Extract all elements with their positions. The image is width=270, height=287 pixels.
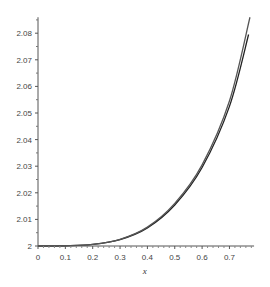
y-tick-label: 2.08 — [16, 29, 32, 38]
x-tick-label: 0.5 — [169, 253, 181, 262]
y-tick-label: 2.04 — [16, 136, 32, 145]
y-tick-label: 2.01 — [16, 215, 32, 224]
series-line-2 — [38, 17, 250, 246]
x-tick-label: 0.7 — [224, 253, 236, 262]
x-tick-label: 0.4 — [142, 253, 154, 262]
x-tick-label: 0.3 — [114, 253, 126, 262]
y-tick-label: 2.03 — [16, 162, 32, 171]
y-tick-label: 2.05 — [16, 109, 32, 118]
y-tick-label: 2.07 — [16, 56, 32, 65]
x-tick-label: 0.1 — [60, 253, 72, 262]
x-axis-label: x — [142, 266, 147, 276]
axes: 22.012.022.032.042.052.062.072.0800.10.2… — [16, 17, 254, 276]
x-tick-label: 0 — [36, 253, 41, 262]
y-tick-label: 2.02 — [16, 189, 32, 198]
chart: 22.012.022.032.042.052.062.072.0800.10.2… — [0, 0, 270, 287]
y-tick-label: 2 — [28, 242, 33, 251]
series-line-1 — [38, 35, 249, 246]
plot-area — [38, 17, 250, 246]
x-tick-label: 0.6 — [197, 253, 209, 262]
y-tick-label: 2.06 — [16, 82, 32, 91]
x-tick-label: 0.2 — [87, 253, 99, 262]
